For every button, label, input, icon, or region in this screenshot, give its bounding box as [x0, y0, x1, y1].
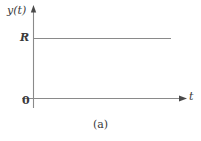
y-axis-label: y(t): [7, 5, 26, 16]
step-response-figure: y(t) t R 0 (a): [0, 0, 201, 141]
y-axis-arrow-icon: [31, 5, 36, 13]
plot-canvas: [0, 0, 201, 118]
t-axis-label: t: [189, 91, 193, 102]
origin-label: 0: [22, 95, 30, 106]
figure-caption: (a): [0, 118, 201, 131]
level-label-r: R: [20, 32, 29, 43]
t-axis-arrow-icon: [179, 96, 187, 102]
